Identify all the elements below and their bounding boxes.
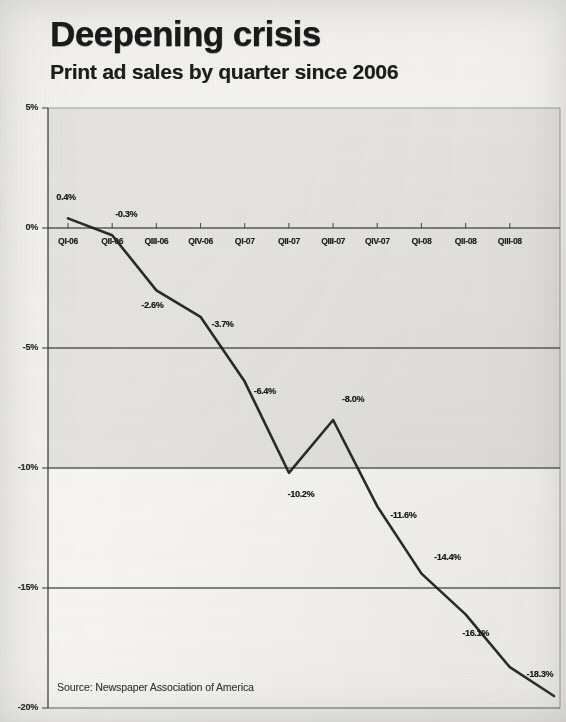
x-axis-tick-label: QIV-07: [365, 236, 390, 246]
data-point-label: -11.6%: [390, 510, 416, 520]
data-point-label: -2.6%: [141, 300, 163, 310]
y-axis-tick-label: 5%: [2, 102, 38, 112]
y-axis-tick-label: 0%: [2, 222, 38, 232]
y-tick-marks: [42, 108, 48, 708]
x-axis-tick-label: QI-07: [235, 236, 255, 246]
data-point-label: -6.4%: [254, 386, 276, 396]
data-point-label: -14.4%: [434, 552, 461, 562]
y-axis-tick-label: -15%: [2, 582, 38, 592]
chart-svg: [0, 0, 566, 722]
x-axis-tick-label: QII-08: [455, 236, 477, 246]
data-point-label: -0.3%: [115, 209, 137, 219]
x-axis-tick-label: QII-07: [278, 236, 300, 246]
gridlines-group: [48, 108, 560, 708]
x-tick-marks: [68, 223, 510, 228]
axes-group: [48, 108, 560, 708]
y-axis-tick-label: -10%: [2, 462, 38, 472]
x-axis-tick-label: QIV-06: [188, 236, 213, 246]
x-axis-tick-label: QIII-06: [144, 236, 168, 246]
chart-container: Deepening crisis Print ad sales by quart…: [0, 0, 566, 722]
x-axis-tick-label: QI-06: [58, 236, 78, 246]
data-point-label: 0.4%: [56, 192, 75, 202]
x-axis-tick-label: QIII-07: [321, 236, 345, 246]
x-axis-tick-label: QI-08: [412, 236, 432, 246]
source-note: Source: Newspaper Association of America: [57, 681, 254, 693]
x-axis-tick-label: QII-06: [101, 236, 123, 246]
data-point-label: -8.0%: [342, 394, 364, 404]
y-axis-tick-label: -20%: [2, 702, 38, 712]
y-axis-tick-label: -5%: [2, 342, 38, 352]
data-point-label: -10.2%: [288, 489, 315, 499]
data-line-group: [68, 218, 554, 696]
data-point-label: -16.1%: [462, 628, 489, 638]
data-point-label: -3.7%: [212, 319, 234, 329]
data-point-label: -18.3%: [526, 669, 553, 679]
x-axis-tick-label: QIII-08: [498, 236, 522, 246]
